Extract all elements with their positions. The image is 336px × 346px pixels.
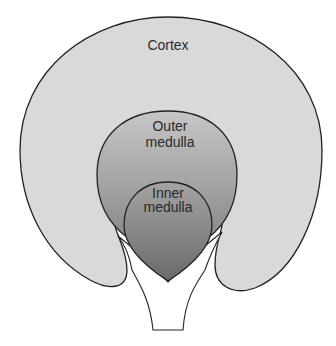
outer-medulla-label-line2: medulla	[145, 134, 194, 150]
cortex-label: Cortex	[147, 37, 188, 53]
inner-medulla-label-line2: medulla	[143, 199, 192, 215]
kidney-diagram: Cortex Outer medulla Inner medulla	[0, 0, 336, 346]
outer-medulla-label-line1: Outer	[152, 118, 187, 134]
kidney-diagram-svg: Cortex Outer medulla Inner medulla	[0, 0, 336, 346]
